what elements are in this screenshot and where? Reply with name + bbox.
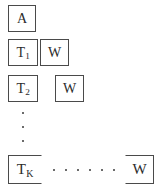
node-label-w1: W <box>48 46 61 60</box>
node-box-tk[interactable]: TK <box>8 155 42 184</box>
node-label-wk: W <box>132 162 146 177</box>
node-label-w2-text: W <box>63 81 76 96</box>
node-label-t2-subscript: 2 <box>25 87 30 97</box>
node-label-a: A <box>17 12 27 26</box>
node-label-w2: W <box>63 82 76 96</box>
horizontal-ellipsis-icon <box>53 168 115 171</box>
node-label-t1: T1 <box>16 46 29 60</box>
node-box-t1[interactable]: T1 <box>8 39 38 66</box>
node-label-a-text: A <box>17 11 27 26</box>
node-box-w1[interactable]: W <box>40 39 69 66</box>
node-label-t1-text: T <box>16 45 25 60</box>
node-box-w2[interactable]: W <box>55 75 84 102</box>
node-label-tk: TK <box>17 162 33 177</box>
node-label-t1-subscript: 1 <box>25 51 30 61</box>
node-label-t2-text: T <box>16 81 25 96</box>
diagram-canvas: A T1 W T2 W TK W <box>0 0 162 190</box>
node-label-wk-text: W <box>132 161 146 177</box>
node-label-w1-text: W <box>48 45 61 60</box>
node-label-t2: T2 <box>16 82 29 96</box>
vertical-ellipsis-icon <box>21 112 24 142</box>
node-box-wk[interactable]: W <box>125 155 154 184</box>
node-label-tk-text: T <box>17 161 26 177</box>
node-box-a[interactable]: A <box>8 5 36 32</box>
node-box-t2[interactable]: T2 <box>8 75 38 102</box>
node-label-tk-subscript: K <box>26 168 33 179</box>
